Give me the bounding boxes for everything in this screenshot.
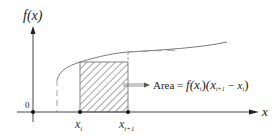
x-axis-label: x (261, 104, 268, 119)
xi1-dot (126, 110, 130, 114)
origin-dot (31, 110, 35, 114)
area-annotation: Area = f(xi)(xi+1 − xi) (153, 77, 248, 92)
x-axis-arrow-icon (249, 110, 259, 115)
area-rectangle (80, 62, 128, 112)
pointer-arrow-icon (144, 83, 150, 88)
y-axis-label: f(x) (23, 8, 43, 24)
tick-label-xi1: xi+1 (118, 117, 135, 133)
tick-label-xi: xi (74, 117, 82, 133)
y-axis-arrow-icon (31, 26, 36, 34)
xi-dot (78, 110, 82, 114)
riemann-rectangle-diagram: f(x) 0 x xi xi+1 Area = f(xi)(xi+1 − xi) (0, 0, 273, 135)
y-axis (31, 26, 36, 122)
x-axis (17, 110, 259, 115)
origin-label: 0 (25, 100, 30, 110)
